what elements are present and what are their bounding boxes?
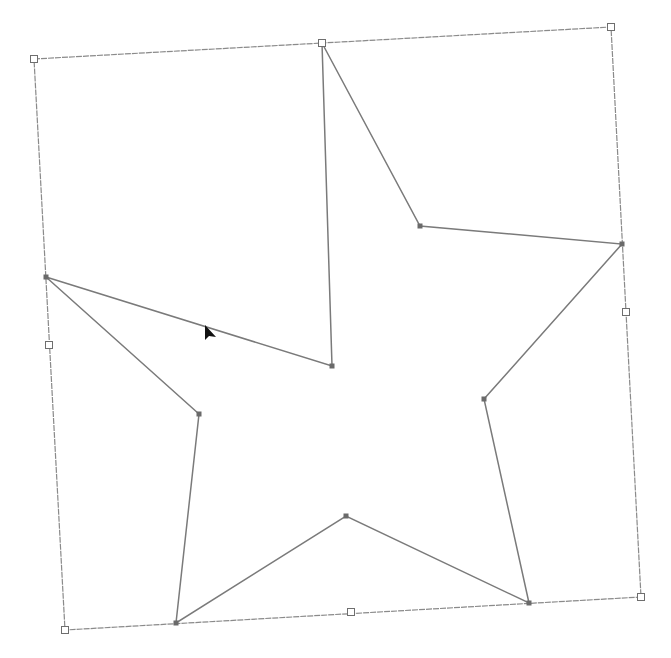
anchor-point[interactable] bbox=[620, 242, 625, 247]
anchor-point[interactable] bbox=[418, 224, 423, 229]
anchor-point[interactable] bbox=[44, 275, 49, 280]
cursor-arrow bbox=[205, 325, 216, 340]
transform-handles[interactable] bbox=[31, 24, 645, 634]
star-path[interactable] bbox=[46, 43, 622, 623]
drawing-canvas[interactable] bbox=[0, 0, 671, 658]
bounding-box[interactable] bbox=[34, 27, 641, 630]
star-shape[interactable] bbox=[46, 43, 622, 623]
bounding-box-outline bbox=[34, 27, 641, 630]
resize-handle-bottom-middle[interactable] bbox=[348, 609, 355, 616]
anchor-points[interactable] bbox=[44, 224, 625, 626]
resize-handle-top-left[interactable] bbox=[31, 56, 38, 63]
resize-handle-bottom-left[interactable] bbox=[62, 627, 69, 634]
resize-handle-left-middle[interactable] bbox=[46, 342, 53, 349]
resize-handle-bottom-right[interactable] bbox=[638, 594, 645, 601]
anchor-point[interactable] bbox=[197, 412, 202, 417]
arrow-pointer-icon bbox=[205, 325, 216, 340]
anchor-point[interactable] bbox=[527, 601, 532, 606]
resize-handle-right-middle[interactable] bbox=[623, 309, 630, 316]
anchor-point[interactable] bbox=[482, 397, 487, 402]
anchor-point[interactable] bbox=[344, 514, 349, 519]
vector-stage[interactable] bbox=[0, 0, 671, 658]
anchor-point[interactable] bbox=[174, 621, 179, 626]
anchor-point[interactable] bbox=[330, 364, 335, 369]
resize-handle-top-middle[interactable] bbox=[319, 40, 326, 47]
resize-handle-top-right[interactable] bbox=[608, 24, 615, 31]
